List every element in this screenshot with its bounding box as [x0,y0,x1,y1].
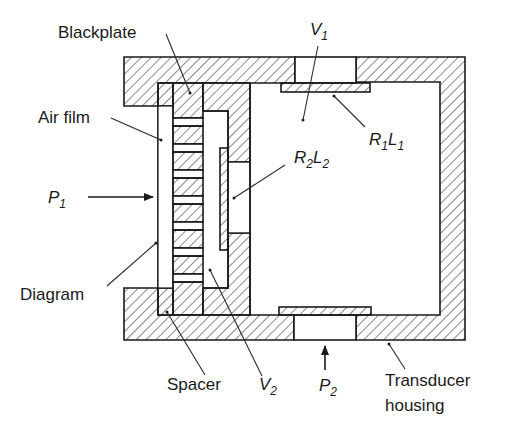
top-port-opening [295,57,356,83]
r2l2-port [228,162,250,233]
label-air-film: Air film [38,108,90,127]
diagram-canvas: Blackplate Air film Diagram Spacer Trans… [0,0,513,439]
r2l2-membrane [220,148,228,250]
label-p2: P2 [319,376,337,399]
air-film-gap [158,106,173,288]
label-transducer: Transducer [385,371,471,390]
spacer-bottom [158,288,173,315]
label-spacer: Spacer [167,375,221,394]
bottom-port-opening [294,315,356,340]
label-blackplate: Blackplate [58,23,136,42]
label-housing: housing [385,396,445,415]
bottom-membrane [279,307,371,315]
label-r1l1: R1L1 [369,130,404,153]
label-r2l2: R2L2 [294,148,329,171]
spacer-top [158,83,173,106]
label-v1: V1 [310,20,328,43]
transducer-cross-section: Blackplate Air film Diagram Spacer Trans… [0,0,513,439]
blackplate-comb [173,83,203,315]
r1l1-membrane [281,83,370,92]
label-p1: P1 [48,188,66,211]
label-diagram: Diagram [20,285,84,304]
label-v2: V2 [259,375,277,398]
